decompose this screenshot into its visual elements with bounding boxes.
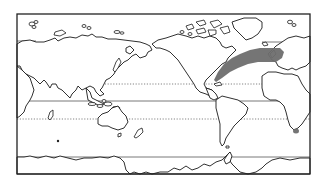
svalbard-islands bbox=[288, 20, 297, 26]
highlight-southern-africa bbox=[293, 129, 299, 134]
arctic-islands-west bbox=[29, 21, 124, 37]
madagascar-island bbox=[48, 110, 53, 120]
australia-landmass bbox=[98, 106, 128, 130]
world-map bbox=[0, 0, 326, 192]
eurasia-landmass bbox=[17, 34, 152, 98]
tasmania-island bbox=[118, 133, 121, 137]
south-america-landmass bbox=[216, 96, 248, 146]
iceland-island bbox=[262, 42, 268, 46]
new-zealand-island bbox=[134, 128, 143, 138]
antarctica-landmass bbox=[17, 152, 310, 174]
cuba-island bbox=[214, 82, 222, 86]
greenland-landmass bbox=[232, 18, 262, 40]
arctic-islands-canada bbox=[180, 20, 230, 36]
falkland-islands bbox=[226, 146, 229, 148]
island-dot bbox=[57, 140, 59, 142]
